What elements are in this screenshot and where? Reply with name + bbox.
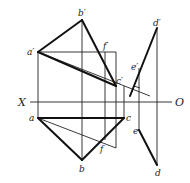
- axis-label-x: X: [17, 96, 27, 109]
- label-a: a: [29, 113, 34, 123]
- axis-label-o: O: [175, 96, 184, 109]
- line-a-to-frame: [38, 118, 116, 148]
- label-b: b: [79, 164, 85, 174]
- label-c: c: [126, 113, 131, 123]
- projection-diagram: X O a′ b′ c′ d′ e′ f′ a b c d e f: [0, 0, 190, 183]
- diagram-svg: X O a′ b′ c′ d′ e′ f′ a b c d e f: [0, 0, 190, 183]
- label-a-prime: a′: [27, 47, 34, 57]
- label-d-prime: d′: [153, 18, 161, 28]
- label-b-prime: b′: [78, 8, 86, 18]
- label-f: f: [99, 144, 105, 154]
- edge-e-d: [139, 130, 157, 165]
- label-c-prime: c′: [116, 76, 123, 86]
- edge-a-prime-c-prime: [38, 52, 116, 86]
- label-f-prime: f′: [102, 41, 108, 51]
- edge-a-b: [38, 118, 82, 160]
- label-e-prime: e′: [131, 62, 138, 72]
- label-e: e: [133, 126, 138, 136]
- edge-a-prime-b-prime: [38, 20, 82, 52]
- label-d: d: [155, 168, 161, 178]
